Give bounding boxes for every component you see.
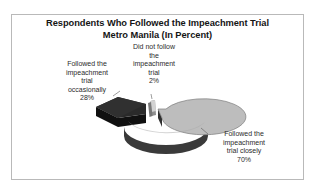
pie-label-closely-value: 70%: [198, 156, 290, 165]
pie-label-closely-line-2: impeachment: [198, 139, 290, 148]
pie-label-occasionally-line-3: trial: [45, 77, 129, 86]
pie-label-occasionally: Followed the impeachment trial occasiona…: [45, 60, 129, 103]
pie-slice-did-not-follow: [148, 100, 156, 117]
pie-label-closely-line-1: Followed the: [198, 130, 290, 139]
chart-title: Respondents Who Followed the Impeachment…: [12, 18, 303, 41]
pie-label-occasionally-value: 28%: [45, 94, 129, 103]
pie-label-closely-line-3: trial closely: [198, 147, 290, 156]
chart-title-line-2: Metro Manila (In Percent): [12, 30, 303, 42]
pie-label-occasionally-line-4: occasionally: [45, 86, 129, 95]
pie-label-occasionally-line-2: impeachment: [45, 69, 129, 78]
pie-label-did-not-follow-line-2: the: [110, 52, 198, 61]
chart-frame: Respondents Who Followed the Impeachment…: [11, 14, 304, 180]
pie-label-did-not-follow-line-1: Did not follow: [110, 43, 198, 52]
pie-label-occasionally-line-1: Followed the: [45, 60, 129, 69]
pie-label-closely: Followed the impeachment trial closely 7…: [198, 130, 290, 164]
chart-title-line-1: Respondents Who Followed the Impeachment…: [12, 18, 303, 30]
